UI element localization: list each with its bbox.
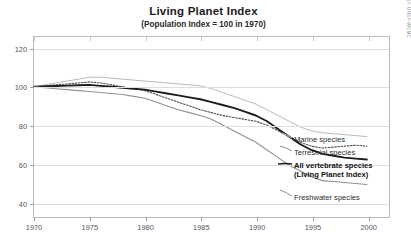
legend-leader-line <box>282 133 292 138</box>
legend-leader-line <box>280 190 292 196</box>
legend-leader-line <box>280 146 292 151</box>
legend-leader-line <box>278 164 292 165</box>
